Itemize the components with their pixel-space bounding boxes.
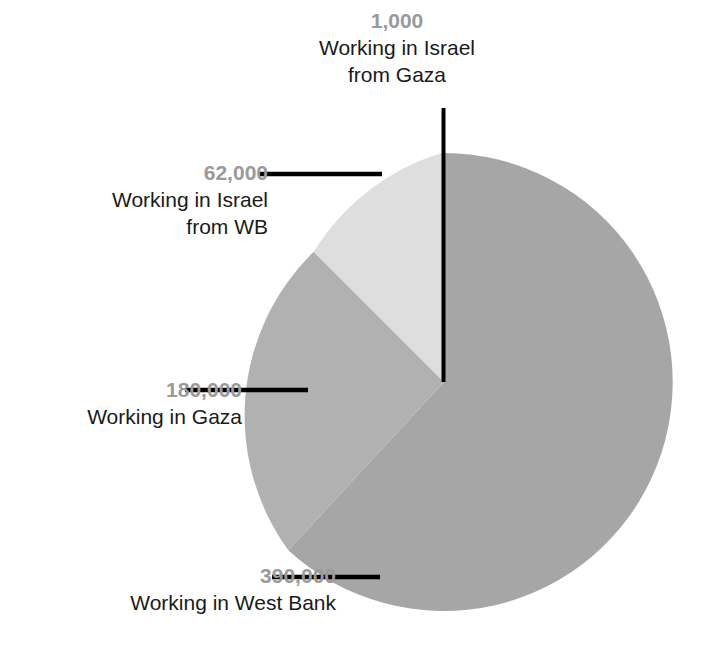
callout-israel-from-gaza: 1,000 Working in Israel from Gaza	[304, 8, 490, 88]
callout-label-israel-from-wb-line1: Working in Israel	[76, 186, 268, 213]
callout-west-bank: 390,000 Working in West Bank	[14, 563, 336, 616]
callout-label-israel-from-gaza-line1: Working in Israel	[304, 34, 490, 61]
callout-value-gaza: 180,000	[12, 377, 242, 403]
callout-value-west-bank: 390,000	[14, 563, 336, 589]
callout-value-israel-from-gaza: 1,000	[304, 8, 490, 34]
callout-label-israel-from-wb-line2: from WB	[76, 213, 268, 240]
callout-label-west-bank: Working in West Bank	[14, 589, 336, 616]
callout-israel-from-wb: 62,000 Working in Israel from WB	[76, 160, 268, 240]
callout-label-gaza: Working in Gaza	[12, 403, 242, 430]
callout-value-israel-from-wb: 62,000	[76, 160, 268, 186]
callout-gaza: 180,000 Working in Gaza	[12, 377, 242, 430]
callout-label-israel-from-gaza-line2: from Gaza	[304, 61, 490, 88]
pie-chart-figure: 1,000 Working in Israel from Gaza 62,000…	[0, 0, 702, 651]
pie-chart-canvas	[0, 0, 702, 651]
